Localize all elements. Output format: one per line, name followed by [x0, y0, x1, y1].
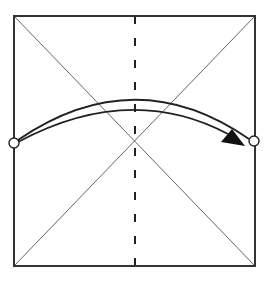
origami-diagram	[0, 0, 268, 293]
right-reference-point	[249, 136, 259, 146]
left-reference-point	[9, 138, 19, 148]
